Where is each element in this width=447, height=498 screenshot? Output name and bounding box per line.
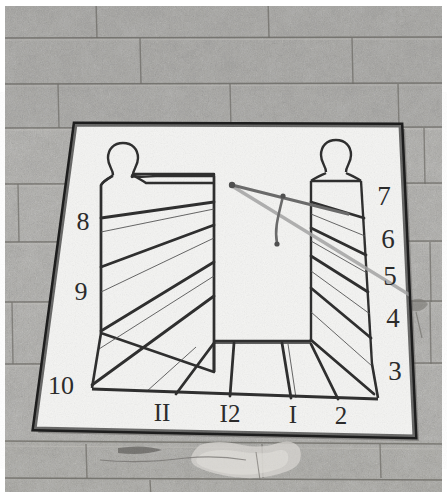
gnomon-anchor	[229, 182, 235, 188]
hour-numeral-12: I2	[220, 400, 241, 427]
left-shoulder-b	[133, 176, 214, 177]
hour-numeral-4: 4	[386, 303, 400, 333]
hour-numeral-3: 3	[388, 356, 402, 386]
hour-numeral-8: 8	[77, 207, 90, 236]
hour-numeral-2: 2	[335, 402, 348, 429]
hour-numeral-9: 9	[75, 277, 88, 306]
hour-numeral-10: 10	[48, 371, 74, 400]
sundial-plaque: 8 9 10 7 6 5 4 3 II I2 I 2	[0, 0, 447, 498]
photo-canvas: 8 9 10 7 6 5 4 3 II I2 I 2	[0, 0, 447, 498]
hour-numeral-7: 7	[377, 181, 391, 211]
hour-numeral-6: 6	[381, 224, 395, 254]
gnomon-strut-foot	[274, 241, 279, 246]
hour-numeral-1: I	[289, 401, 297, 428]
gnomon-strut-top-joint	[280, 193, 285, 198]
hour-numeral-5: 5	[383, 261, 397, 291]
hour-numeral-11: II	[154, 399, 171, 426]
plaque-texture	[34, 124, 419, 439]
sundial-photograph: 8 9 10 7 6 5 4 3 II I2 I 2 Stone wall su…	[0, 0, 447, 498]
